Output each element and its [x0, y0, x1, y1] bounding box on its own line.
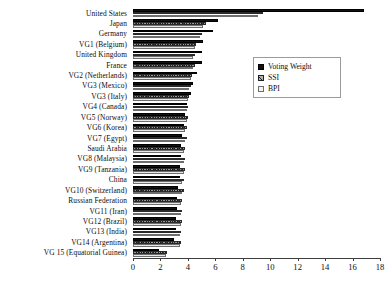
legend-swatch-ssi-icon: [258, 75, 264, 81]
legend-item-vw: Voting Weight: [258, 61, 335, 72]
bar-bpi: [133, 234, 180, 237]
x-tick-mark: [133, 258, 134, 261]
bar-group: [133, 227, 380, 237]
category-label: United Kingdom: [0, 50, 130, 60]
bar-chart: United StatesJapanGermanyVG1 (Belgium)Un…: [0, 0, 387, 292]
x-tick-label: 8: [241, 263, 245, 272]
category-label: France: [0, 60, 130, 70]
x-tick-label: 14: [321, 263, 330, 272]
category-label: VG3 (Italy): [0, 91, 130, 101]
category-label: VG10 (Switzerland): [0, 185, 130, 195]
bar-bpi: [133, 202, 181, 205]
plot-area: [133, 8, 380, 258]
bar-bpi: [133, 15, 258, 18]
bar-group: [133, 112, 380, 122]
bar-group: [133, 102, 380, 112]
x-tick-label: 4: [186, 263, 190, 272]
bar-bpi: [133, 98, 188, 101]
category-label: Germany: [0, 29, 130, 39]
chart-legend: Voting WeightSSIBPI: [253, 57, 341, 98]
bar-group: [133, 164, 380, 174]
bar-bpi: [133, 119, 187, 122]
x-tick-mark: [270, 258, 271, 261]
bar-group: [133, 185, 380, 195]
bar-group: [133, 29, 380, 39]
category-label: VG13 (India): [0, 227, 130, 237]
bar-group: [133, 154, 380, 164]
category-label: VG4 (Canada): [0, 102, 130, 112]
x-tick-label: 16: [348, 263, 357, 272]
category-label: Japan: [0, 18, 130, 28]
bar-bpi: [133, 161, 184, 164]
category-label: VG9 (Tanzania): [0, 164, 130, 174]
legend-label: SSI: [268, 74, 279, 82]
bar-bpi: [133, 181, 182, 184]
legend-label: BPI: [268, 85, 280, 93]
category-axis-labels: United StatesJapanGermanyVG1 (Belgium)Un…: [0, 8, 130, 258]
bar-group: [133, 216, 380, 226]
category-label: United States: [0, 8, 130, 18]
category-label: Saudi Arabia: [0, 143, 130, 153]
bar-bpi: [133, 244, 180, 247]
bar-bpi: [133, 129, 185, 132]
category-label: VG5 (Norway): [0, 112, 130, 122]
category-label: Russian Federation: [0, 196, 130, 206]
bar-group: [133, 248, 380, 258]
bar-group: [133, 175, 380, 185]
bar-bpi: [133, 150, 184, 153]
bar-group: [133, 133, 380, 143]
bar-group: [133, 18, 380, 28]
bar-bpi: [133, 88, 189, 91]
x-tick-mark: [160, 258, 161, 261]
category-label: VG1 (Belgium): [0, 39, 130, 49]
x-tick-mark: [215, 258, 216, 261]
legend-label: Voting Weight: [268, 63, 312, 71]
bar-bpi: [133, 56, 193, 59]
legend-swatch-vw-icon: [258, 64, 264, 70]
x-tick-mark: [325, 258, 326, 261]
bar-group: [133, 143, 380, 153]
category-label: VG14 (Argentina): [0, 237, 130, 247]
legend-item-bpi: BPI: [258, 83, 335, 94]
x-tick-label: 0: [131, 263, 135, 272]
bar-bpi: [133, 67, 193, 70]
x-tick-mark: [298, 258, 299, 261]
bar-bpi: [133, 109, 187, 112]
legend-swatch-bpi-icon: [258, 86, 264, 92]
category-label: VG3 (Mexico): [0, 81, 130, 91]
category-label: VG7 (Egypt): [0, 133, 130, 143]
bar-bpi: [133, 254, 166, 257]
category-label: VG2 (Netherlands): [0, 71, 130, 81]
x-tick-label: 2: [158, 263, 162, 272]
bar-group: [133, 123, 380, 133]
x-tick-label: 18: [376, 263, 385, 272]
x-tick-label: 12: [293, 263, 302, 272]
bar-bpi: [133, 192, 182, 195]
legend-item-ssi: SSI: [258, 72, 335, 83]
category-label: VG12 (Brazil): [0, 216, 130, 226]
bar-group: [133, 8, 380, 18]
category-label: VG 15 (Equatorial Guinea): [0, 248, 130, 258]
category-label: VG6 (Korea): [0, 123, 130, 133]
bar-bpi: [133, 140, 185, 143]
bar-bpi: [133, 171, 184, 174]
bar-group: [133, 237, 380, 247]
bar-bpi: [133, 213, 181, 216]
bar-group: [133, 196, 380, 206]
x-tick-mark: [380, 258, 381, 261]
category-label: VG11 (Iran): [0, 206, 130, 216]
category-label: China: [0, 175, 130, 185]
x-tick-mark: [243, 258, 244, 261]
bar-bpi: [133, 46, 195, 49]
x-tick-mark: [188, 258, 189, 261]
x-tick-label: 10: [266, 263, 275, 272]
bar-bpi: [133, 36, 200, 39]
x-tick-mark: [353, 258, 354, 261]
bar-group: [133, 39, 380, 49]
bar-group: [133, 206, 380, 216]
bar-bpi: [133, 223, 181, 226]
x-tick-label: 6: [213, 263, 217, 272]
category-label: VG8 (Malaysia): [0, 154, 130, 164]
bar-bpi: [133, 77, 191, 80]
x-axis-line: [133, 258, 380, 259]
